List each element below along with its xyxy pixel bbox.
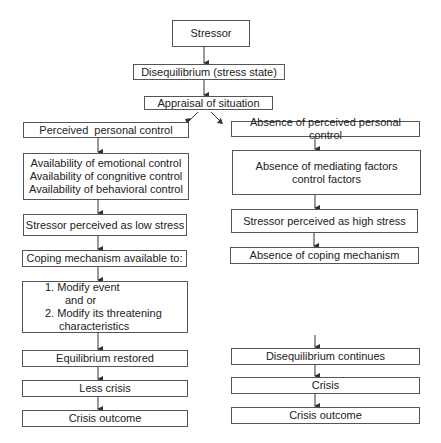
perceived-control-box: Perceived personal control bbox=[23, 122, 189, 138]
right-outcome-box: Crisis outcome bbox=[231, 407, 420, 424]
coping-label: Coping mechanism available to: bbox=[27, 252, 183, 265]
modify-event: 1. Modify event bbox=[45, 281, 120, 294]
coping-box: Coping mechanism available to: bbox=[22, 250, 187, 267]
less-crisis-label: Less crisis bbox=[79, 382, 130, 395]
absence-mediating-line1: Absence of mediating factors bbox=[256, 160, 398, 173]
low-stress-box: Stressor perceived as low stress bbox=[23, 214, 187, 236]
absence-mediating-box: Absence of mediating factors control fac… bbox=[232, 150, 421, 195]
availability-behavioral: Availability of behavioral control bbox=[29, 183, 183, 196]
absence-control-label: Absence of perceived personal control bbox=[232, 116, 419, 142]
absence-mediating-line2: control factors bbox=[292, 173, 361, 186]
crisis-box: Crisis bbox=[231, 377, 420, 394]
high-stress-box: Stressor perceived as high stress bbox=[231, 209, 418, 233]
perceived-control-label: Perceived personal control bbox=[39, 124, 172, 137]
equilibrium-box: Equilibrium restored bbox=[22, 350, 188, 367]
stressor-label: Stressor bbox=[191, 27, 232, 40]
modify-andor: and or bbox=[45, 294, 96, 307]
stressor-box: Stressor bbox=[172, 20, 250, 47]
availability-cognitive: Availability of congnitive control bbox=[30, 170, 183, 183]
availability-emotional: Availability of emotional control bbox=[31, 157, 182, 170]
right-outcome-label: Crisis outcome bbox=[289, 409, 362, 422]
absence-coping-label: Absence of coping mechanism bbox=[250, 249, 400, 262]
disequilibrium-label: Disequilibrium (stress state) bbox=[141, 66, 277, 79]
equilibrium-label: Equilibrium restored bbox=[56, 352, 154, 365]
appraisal-label: Appraisal of situation bbox=[157, 97, 259, 110]
modify-characteristics: characteristics bbox=[45, 320, 129, 333]
modify-threatening: 2. Modify its threatening bbox=[45, 307, 162, 320]
less-crisis-box: Less crisis bbox=[22, 380, 188, 397]
absence-coping-box: Absence of coping mechanism bbox=[230, 247, 419, 264]
crisis-label: Crisis bbox=[312, 379, 340, 392]
low-stress-label: Stressor perceived as low stress bbox=[26, 219, 184, 232]
appraisal-box: Appraisal of situation bbox=[144, 96, 273, 110]
left-outcome-label: Crisis outcome bbox=[69, 412, 142, 425]
absence-control-box: Absence of perceived personal control bbox=[231, 121, 420, 137]
diseq-continues-box: Disequilibrium continues bbox=[231, 348, 420, 365]
disequilibrium-box: Disequilibrium (stress state) bbox=[133, 64, 285, 80]
diseq-continues-label: Disequilibrium continues bbox=[266, 350, 385, 363]
modify-box: 1. Modify event and or 2. Modify its thr… bbox=[22, 281, 188, 333]
high-stress-label: Stressor perceived as high stress bbox=[243, 215, 406, 228]
left-outcome-box: Crisis outcome bbox=[22, 410, 188, 427]
availability-box: Availability of emotional control Availa… bbox=[23, 153, 189, 200]
